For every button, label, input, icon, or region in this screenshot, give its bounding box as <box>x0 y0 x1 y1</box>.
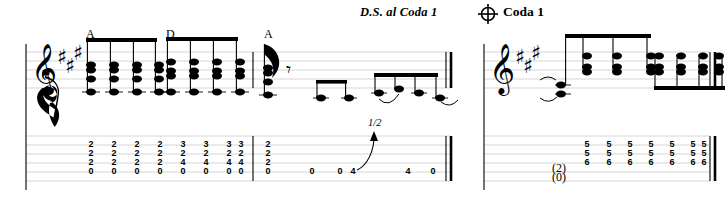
tab-note-1: 0 <box>307 167 317 176</box>
beam-group-3 <box>316 80 347 84</box>
note-low-5 <box>411 75 427 96</box>
chord-stack-r5 <box>676 53 686 88</box>
system-left: D.S. al Coda 1 A D A 1/2 <box>0 0 470 204</box>
tie-end-left <box>441 100 458 105</box>
tab-note-4: 4 <box>403 167 413 176</box>
key-signature-sharps-right: ♯ ♯ ♯ <box>515 41 541 78</box>
note-low-3 <box>371 75 387 96</box>
note-low-4 <box>394 75 404 92</box>
coda-symbol-icon <box>478 4 498 24</box>
tie-incoming-lower <box>540 97 557 101</box>
chord-stack-r4 <box>654 53 664 88</box>
chord-stack-r6 <box>698 53 708 88</box>
chord-stack-d-2 <box>185 39 203 95</box>
music-score: D.S. al Coda 1 A D A 1/2 <box>0 0 727 204</box>
beam-group-1 <box>86 38 157 42</box>
chord-stack-d-3 <box>208 39 226 95</box>
treble-clef-glyph-right: 𝄞 <box>489 42 515 96</box>
chord-stack-d-4 <box>231 39 249 95</box>
note-low-1 <box>313 82 329 101</box>
chord-stack-a-4 <box>150 40 168 95</box>
left-system-engraving: 𝄞 ♯ ♯ ♯ <box>0 0 470 204</box>
beam-group-2 <box>166 37 238 41</box>
svg-text:♯: ♯ <box>531 41 541 65</box>
chord-stack-a-3 <box>128 40 146 95</box>
chord-stack-r1 <box>582 36 592 75</box>
beam-group-5 <box>565 34 651 38</box>
tab-note-3-bend: 4 <box>348 167 358 176</box>
chord-stack-d-1 <box>162 39 180 95</box>
right-system-engraving: 𝄞 ♯ ♯ ♯ <box>470 0 727 204</box>
beam-group-4 <box>374 73 438 77</box>
chord-stack-a-2 <box>105 40 123 95</box>
tab-note-5: 0 <box>428 167 438 176</box>
note-low-2 <box>341 82 357 101</box>
chord-stack-r2 <box>612 36 622 75</box>
tab-note-2: 0 <box>335 167 345 176</box>
treble-clef-glyph: 𝄞 <box>31 42 57 96</box>
chord-stack-a-1 <box>82 40 100 95</box>
eighth-rest-icon: 𝄾 <box>286 58 291 80</box>
system-right: Coda 1 <box>470 0 727 204</box>
key-signature-sharps: ♯ ♯ ♯ <box>57 41 83 78</box>
svg-text:♯: ♯ <box>73 41 83 65</box>
